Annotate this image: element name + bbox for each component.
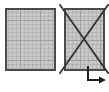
diagram-svg	[0, 0, 109, 92]
grid-square-left[interactable]	[6, 9, 55, 70]
diagram-canvas	[0, 0, 109, 92]
grid-square-left-major-lines	[6, 9, 55, 70]
